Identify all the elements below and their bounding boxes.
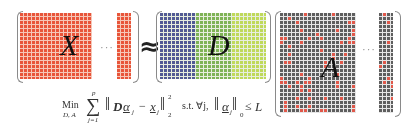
formula-term-d: D <box>113 100 122 113</box>
a-matrix-grid <box>280 13 356 113</box>
formula-term-x: x <box>150 100 156 113</box>
formula-norm2-open: ‖ <box>214 95 219 113</box>
a-matrix-column-grid <box>379 13 393 113</box>
a-matrix-ellipsis: ··· <box>362 44 376 55</box>
formula-min-subscript: D, A <box>63 112 76 119</box>
formula-norm2-close: ‖ <box>232 95 237 113</box>
formula-alpha-sub: j <box>132 109 134 116</box>
formula-min: Min <box>62 100 79 110</box>
formula-norm-open: ‖ <box>105 95 110 113</box>
d-matrix-right-bracket <box>265 11 271 83</box>
formula-sum-lower: j=1 <box>88 117 98 124</box>
formula-leq: ≤ <box>245 100 252 112</box>
formula-x-sub: j <box>157 109 159 116</box>
formula-superscript: 2 <box>168 94 172 101</box>
formula-norm-close: ‖ <box>160 95 165 113</box>
formula-subject-to: s.t. ∀j, <box>182 101 208 111</box>
x-matrix-ellipsis: ··· <box>100 42 114 53</box>
d-matrix-label: D <box>208 30 230 60</box>
formula-minus: − <box>139 100 146 112</box>
formula-alpha2: α <box>222 100 229 113</box>
x-matrix-label: X <box>60 30 78 60</box>
x-matrix-grid <box>20 13 92 79</box>
a-matrix-label: A <box>321 52 339 82</box>
x-matrix-column-grid <box>117 13 131 79</box>
a-matrix-right-bracket <box>395 11 401 117</box>
formula-bound: L <box>255 100 262 113</box>
formula-sum-symbol: ∑ <box>86 95 100 115</box>
formula-norm2-sub: 0 <box>240 112 244 119</box>
formula-term-alpha: α <box>123 100 130 113</box>
formula-subscript: 2 <box>168 112 172 119</box>
